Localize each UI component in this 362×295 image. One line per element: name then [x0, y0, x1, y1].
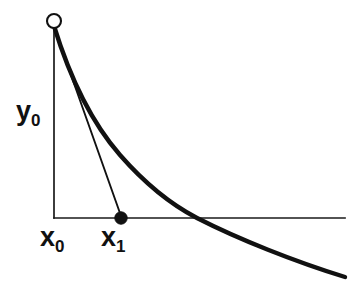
label-x1: x1 — [101, 224, 126, 251]
label-x0: x0 — [40, 224, 65, 251]
label-x0-base: x — [40, 222, 55, 252]
label-y0-subscript: 0 — [31, 111, 40, 130]
filled-dot-marker — [115, 212, 127, 224]
label-x0-subscript: 0 — [55, 237, 64, 256]
label-y0: y0 — [16, 98, 41, 125]
label-x1-subscript: 1 — [116, 237, 125, 256]
label-x1-base: x — [101, 222, 116, 252]
open-circle-marker — [47, 14, 61, 28]
tangent-line — [54, 27, 121, 216]
label-y0-base: y — [16, 96, 31, 126]
figure-canvas: y0 x0 x1 — [0, 0, 362, 295]
